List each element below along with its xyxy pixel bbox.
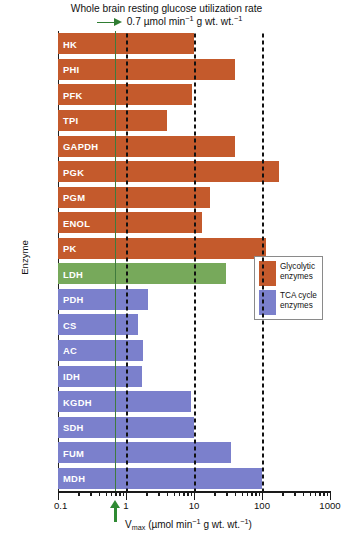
plot-area: HKPHIPFKTPIGAPDHPGKPGMENOLPKLDHPDHCSACID…	[58, 31, 330, 491]
subtitle-units-a: µmol min	[144, 16, 186, 27]
tick-minor	[123, 491, 124, 496]
x-axis-sup-1: −1	[192, 517, 200, 526]
tick-minor	[319, 491, 320, 496]
subtitle-sup-1: −1	[185, 14, 193, 23]
tick-major-1	[126, 491, 127, 500]
tick-minor	[327, 491, 328, 496]
tick-minor	[323, 491, 324, 496]
tick-minor	[111, 491, 112, 496]
x-axis-units-mid: g wt. wt.	[201, 519, 240, 530]
tick-minor	[282, 491, 283, 496]
gridline-1	[126, 31, 128, 491]
tick-minor	[315, 491, 316, 496]
tick-label-100: 100	[254, 500, 270, 511]
chart-subtitle: 0.7 µmol min−1 g wt. wt.−1	[0, 15, 333, 29]
tick-major-1000	[330, 491, 331, 500]
subtitle-value: 0.7	[127, 16, 141, 27]
gridline-100	[262, 31, 264, 491]
tick-minor	[119, 491, 120, 496]
tick-label-0.1: 0.1	[54, 500, 67, 511]
x-axis-label: Vmax (µmol min−1 g wt. wt.−1)	[0, 519, 333, 530]
tick-minor	[99, 491, 100, 496]
arrow-right-icon	[97, 18, 123, 27]
tick-minor	[247, 491, 248, 496]
tick-minor	[310, 491, 311, 496]
tick-label-1000: 1000	[319, 500, 340, 511]
tick-minor	[251, 491, 252, 496]
x-axis-label-max: max	[132, 523, 146, 532]
tick-minor	[294, 491, 295, 496]
tick-minor	[226, 491, 227, 496]
tick-minor	[179, 491, 180, 496]
tick-minor	[242, 491, 243, 496]
tick-minor	[187, 491, 188, 496]
x-axis-units-open: (µmol min	[145, 519, 192, 530]
x-axis-label-v: V	[125, 519, 132, 530]
tick-label-10: 10	[189, 500, 200, 511]
tick-minor	[303, 491, 304, 496]
tick-minor	[106, 491, 107, 496]
marker-line-0-7	[115, 31, 116, 491]
tick-minor	[235, 491, 236, 496]
subtitle-text: 0.7 µmol min−1 g wt. wt.−1	[127, 15, 243, 29]
chart-title-block: Whole brain resting glucose utilization …	[0, 2, 333, 29]
tick-minor	[191, 491, 192, 496]
tick-major-0.1	[58, 491, 59, 500]
subtitle-units-b: g wt. wt.	[194, 16, 234, 27]
tick-minor	[214, 491, 215, 496]
tick-minor	[90, 491, 91, 496]
y-axis-label: Enzyme	[19, 228, 30, 288]
tick-major-10	[194, 491, 195, 500]
tick-minor	[115, 491, 116, 496]
tick-major-100	[262, 491, 263, 500]
tick-label-1: 1	[123, 500, 128, 511]
x-axis-sup-2: −1	[240, 517, 248, 526]
gridline-10	[194, 31, 196, 491]
x-axis-units-close: )	[249, 519, 252, 530]
tick-minor	[78, 491, 79, 496]
tick-minor	[255, 491, 256, 496]
tick-minor	[158, 491, 159, 496]
tick-minor	[259, 491, 260, 496]
tick-minor	[183, 491, 184, 496]
tick-minor	[167, 491, 168, 496]
chart-title: Whole brain resting glucose utilization …	[0, 2, 333, 15]
tick-minor	[146, 491, 147, 496]
gridlines	[58, 31, 330, 491]
subtitle-sup-2: −1	[234, 14, 242, 23]
tick-minor	[174, 491, 175, 496]
